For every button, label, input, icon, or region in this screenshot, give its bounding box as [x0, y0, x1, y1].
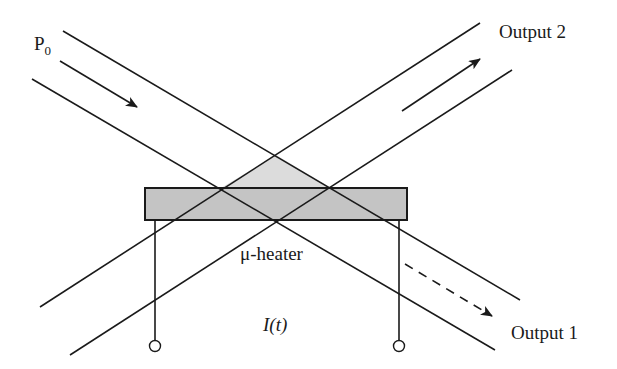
- output-1-dashed-arrow: [405, 264, 492, 316]
- current-label: I(t): [263, 314, 287, 336]
- coupler-diagram: [0, 0, 617, 369]
- micro-heater: [145, 188, 407, 220]
- output-2-arrow: [402, 59, 480, 111]
- output-waveguide-bottom: [70, 70, 512, 355]
- input-power-label: P0: [34, 33, 51, 59]
- output-1-label: Output 1: [511, 322, 578, 344]
- left-terminal: [150, 341, 161, 352]
- interaction-region: [221, 155, 331, 188]
- heater-label: μ-heater: [240, 243, 303, 265]
- output-2-label: Output 2: [499, 21, 566, 43]
- input-waveguide-bottom: [32, 79, 495, 350]
- right-terminal: [394, 341, 405, 352]
